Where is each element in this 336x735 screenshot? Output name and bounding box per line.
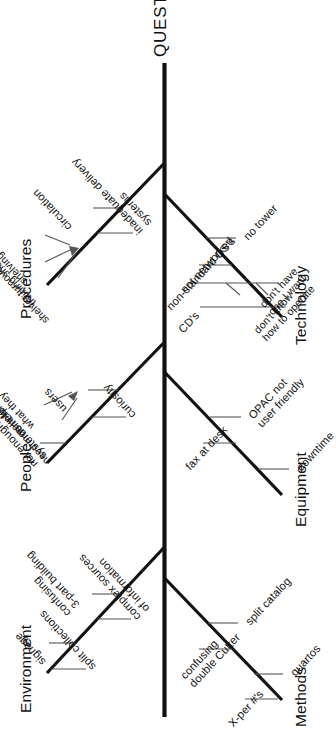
subcause-line-pro-1 xyxy=(58,253,76,278)
subcause-line-pro-2 xyxy=(45,249,72,262)
subcause-line-tec-1 xyxy=(226,283,240,295)
effect-head-label: QUESTIONS xyxy=(152,0,170,57)
subcause-line-pro-3 xyxy=(45,235,70,245)
